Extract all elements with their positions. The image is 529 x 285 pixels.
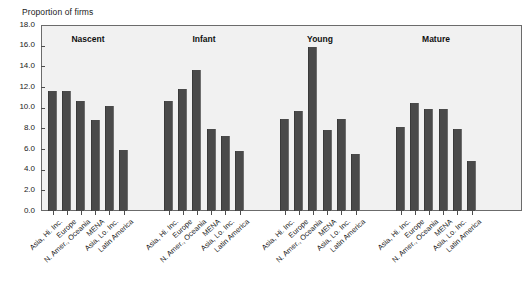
y-axis-tick-mark	[41, 128, 45, 129]
bar	[424, 109, 433, 211]
bar	[323, 130, 332, 211]
x-axis-tick-mark	[240, 211, 241, 215]
x-axis-tick-mark	[95, 211, 96, 215]
x-axis-tick-mark	[285, 211, 286, 215]
bar	[337, 119, 346, 211]
bar	[91, 120, 100, 211]
x-axis-tick-mark	[53, 211, 54, 215]
x-axis-tick-mark	[197, 211, 198, 215]
x-axis-tick-mark	[429, 211, 430, 215]
y-axis-tick-label: 2.0	[24, 185, 35, 194]
y-axis-tick-mark	[41, 190, 45, 191]
x-axis-tick-mark	[415, 211, 416, 215]
y-axis-tick-mark	[41, 108, 45, 109]
y-axis-tick-mark	[41, 170, 45, 171]
y-axis-tick-label: 8.0	[24, 123, 35, 132]
bar-chart: Proportion of firms 18.016.014.012.010.0…	[0, 0, 529, 285]
x-axis-tick-mark	[67, 211, 68, 215]
bar	[207, 129, 216, 211]
group-label-young: Young	[307, 34, 333, 44]
x-axis-tick-mark	[313, 211, 314, 215]
bar	[467, 161, 476, 211]
bar	[396, 127, 405, 211]
bar	[439, 109, 448, 211]
bar	[280, 119, 289, 211]
x-axis-tick-mark	[183, 211, 184, 215]
bar	[164, 101, 173, 211]
group-label-infant: Infant	[192, 34, 215, 44]
y-axis-tick-mark	[41, 87, 45, 88]
bar	[308, 47, 317, 211]
x-axis-tick-mark	[443, 211, 444, 215]
group-label-nascent: Nascent	[71, 34, 104, 44]
y-axis-tick-label: 16.0	[19, 40, 35, 49]
y-axis-tick-label: 14.0	[19, 61, 35, 70]
y-axis-tick-label: 0.0	[24, 206, 35, 215]
bar	[221, 136, 230, 211]
bar	[294, 111, 303, 211]
group-label-mature: Mature	[422, 34, 450, 44]
y-axis-tick-mark	[41, 66, 45, 67]
x-axis-tick-mark	[211, 211, 212, 215]
x-axis-tick-mark	[356, 211, 357, 215]
x-axis-tick-mark	[124, 211, 125, 215]
x-axis-tick-mark	[81, 211, 82, 215]
bar	[192, 70, 201, 211]
bar	[62, 91, 71, 211]
bar	[119, 150, 128, 211]
y-axis-tick-label: 4.0	[24, 164, 35, 173]
bar	[351, 154, 360, 211]
y-axis-tick-label: 18.0	[19, 20, 35, 29]
bar	[235, 151, 244, 211]
y-axis-tick-mark	[41, 149, 45, 150]
y-axis-tick-mark	[41, 46, 45, 47]
y-axis-tick-label: 10.0	[19, 102, 35, 111]
x-axis-tick-mark	[299, 211, 300, 215]
bar	[105, 106, 114, 211]
bar	[48, 91, 57, 211]
bar	[178, 89, 187, 211]
bar	[410, 103, 419, 212]
x-axis-tick-mark	[401, 211, 402, 215]
x-axis-tick-mark	[472, 211, 473, 215]
y-axis-tick-label: 6.0	[24, 144, 35, 153]
x-axis-tick-mark	[341, 211, 342, 215]
bar	[453, 129, 462, 211]
y-axis-tick-label: 12.0	[19, 82, 35, 91]
chart-axis-title: Proportion of firms	[22, 7, 93, 17]
x-axis-tick-mark	[457, 211, 458, 215]
bar	[76, 101, 85, 211]
x-axis-tick-mark	[169, 211, 170, 215]
x-axis-tick-mark	[327, 211, 328, 215]
x-axis-tick-mark	[109, 211, 110, 215]
x-axis-tick-mark	[225, 211, 226, 215]
